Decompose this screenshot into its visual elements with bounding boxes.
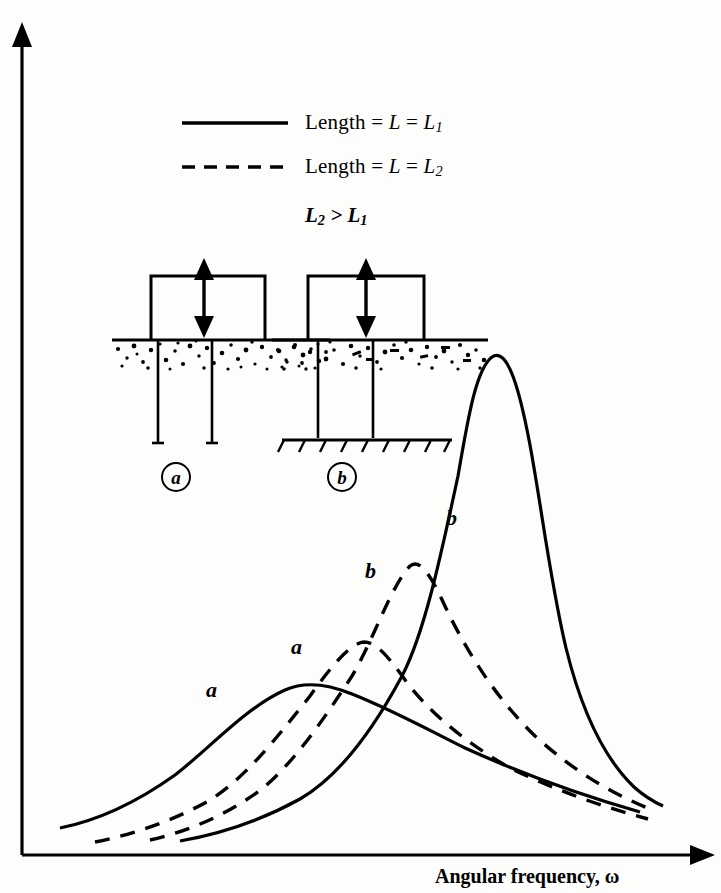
legend-entry-dashed-eq: = — [401, 154, 424, 178]
legend-entry-dashed-var1: L — [389, 154, 401, 178]
curve-a-dashed — [95, 642, 648, 842]
legend-swatches — [182, 123, 288, 167]
diagram-a-tag-text: a — [171, 468, 181, 487]
diagram-a-vibration-arrow-up — [194, 258, 214, 280]
curve-b-solid — [180, 355, 663, 841]
x-axis-arrowhead — [690, 845, 715, 865]
curve-label-a-solid: a — [206, 679, 217, 701]
legend-entry-solid-var1: L — [389, 110, 401, 134]
diagram-a-vibration-arrow-down — [194, 316, 214, 338]
legend-inequality: L2 > L1 — [305, 205, 367, 227]
curve-label-b-dashed: b — [365, 560, 376, 582]
legend-inequality-op: > — [325, 203, 347, 227]
diagram-a-soil-band — [116, 340, 328, 371]
legend-inequality-left-sub: 2 — [318, 212, 325, 228]
curve-label-b-solid: b — [446, 507, 457, 529]
curve-b-dashed — [150, 564, 650, 840]
legend-inequality-right: L — [347, 203, 360, 227]
x-axis-label: Angular frequency, ω — [435, 866, 619, 886]
legend-entry-solid-label: Length = L = L1 — [305, 112, 443, 134]
diagram-a-block — [151, 276, 265, 340]
legend-entry-solid-sub: 1 — [435, 119, 442, 135]
curve-label-a-dashed: a — [291, 636, 302, 658]
diagram-b-tag: b — [327, 462, 357, 492]
diagram-b-soil-band — [276, 340, 486, 370]
legend-entry-solid-eq: = — [401, 110, 424, 134]
legend-inequality-left: L — [305, 203, 318, 227]
y-axis-arrowhead — [12, 22, 32, 47]
response-curves — [60, 355, 663, 842]
legend-entry-dashed-label: Length = L = L2 — [305, 156, 443, 178]
legend-inequality-right-sub: 1 — [360, 212, 367, 228]
diagram-b-vibration-arrow-up — [356, 258, 376, 280]
legend-entry-solid-prefix: Length = — [305, 110, 389, 134]
diagram-a-tag: a — [161, 462, 191, 492]
legend-entry-dashed-var2: L — [423, 154, 435, 178]
legend-entry-dashed-sub: 2 — [435, 163, 442, 179]
diagram-b-vibration-arrow-down — [356, 316, 376, 338]
legend-entry-dashed-prefix: Length = — [305, 154, 389, 178]
diagram-b-tag-text: b — [337, 468, 347, 487]
diagram-b-bedrock-hatching — [278, 440, 450, 452]
figure-root: Length = L = L1 Length = L = L2 L2 > L1 … — [0, 0, 721, 893]
legend-entry-solid-var2: L — [423, 110, 435, 134]
diagram-a — [112, 258, 330, 443]
